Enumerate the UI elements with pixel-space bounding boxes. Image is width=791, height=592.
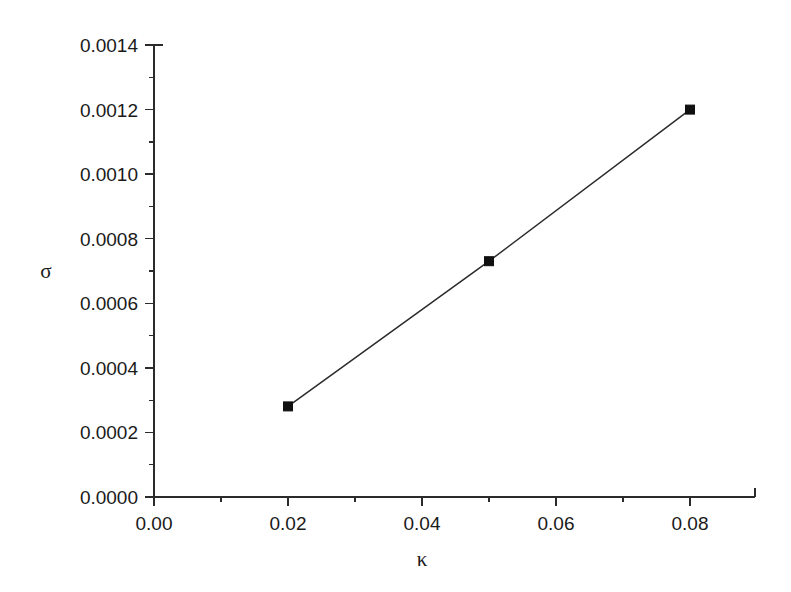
y-axis-title: σ [40, 259, 51, 283]
x-tick-label: 0.00 [136, 513, 173, 534]
y-tick-label: 0.0002 [80, 422, 138, 443]
data-point-marker [284, 402, 293, 411]
data-point-marker [485, 257, 494, 266]
y-tick-label: 0.0010 [80, 164, 138, 185]
y-axis-ticks [145, 45, 154, 497]
x-axis-tick-labels: 0.00 0.02 0.04 0.06 0.08 [136, 513, 709, 534]
x-tick-label: 0.02 [270, 513, 307, 534]
line-chart-canvas: 0.0000 0.0002 0.0004 0.0006 0.0008 0.001… [0, 0, 791, 592]
chart-figure: 0.0000 0.0002 0.0004 0.0006 0.0008 0.001… [0, 0, 791, 592]
y-tick-label: 0.0012 [80, 100, 138, 121]
x-axis-title: κ [417, 547, 428, 571]
x-tick-label: 0.06 [538, 513, 575, 534]
x-axis-ticks [154, 497, 690, 506]
x-tick-label: 0.04 [404, 513, 441, 534]
y-tick-label: 0.0000 [80, 487, 138, 508]
y-tick-label: 0.0014 [80, 35, 139, 56]
x-tick-label: 0.08 [672, 513, 709, 534]
y-tick-label: 0.0008 [80, 229, 138, 250]
y-tick-label: 0.0006 [80, 293, 138, 314]
y-tick-label: 0.0004 [80, 358, 139, 379]
axis-spines [154, 45, 755, 497]
y-axis-tick-labels: 0.0000 0.0002 0.0004 0.0006 0.0008 0.001… [80, 35, 139, 508]
data-point-marker [686, 105, 695, 114]
